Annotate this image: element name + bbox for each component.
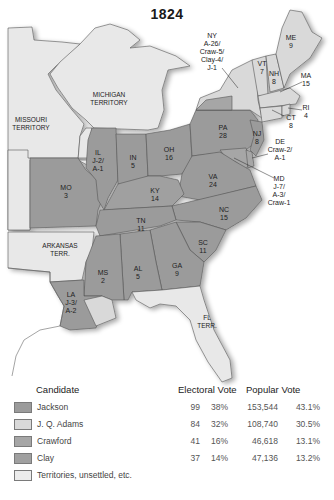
popular-votes: 153,544 [242,402,278,412]
label-ma: MA15 [301,72,312,87]
label-de: DECraw-2/A-1 [268,138,293,161]
popular-pct: 30.5% [290,419,320,429]
electoral-pct: 32% [206,419,228,429]
label-pa: PA28 [219,124,228,139]
popular-votes: 47,136 [242,453,278,463]
electoral-pct: 16% [206,436,228,446]
legend-row-adams: J. Q. Adams 84 32% 108,740 30.5% [14,419,324,433]
candidate-name: J. Q. Adams [37,419,83,429]
state-me [276,10,322,88]
label-missouri-territory: MISSOURITERRITORY [12,116,50,131]
label-ri: RI4 [303,104,310,119]
swatch-crawford [14,436,32,447]
label-md: MDJ-7/A-3/Craw-1 [268,175,291,206]
header-popular-vote: Popular Vote [246,384,300,395]
label-tn: TN11 [136,217,145,232]
legend-row-jackson: Jackson 99 38% 153,544 43.1% [14,402,324,416]
header-electoral-vote: Electoral Vote [178,384,237,395]
label-nc: NC15 [219,206,229,221]
legend-row-clay: Clay 37 14% 47,136 13.2% [14,453,324,467]
label-ct: CT8 [286,114,296,129]
label-va: VA24 [209,173,218,188]
popular-pct: 13.1% [290,436,320,446]
swatch-clay [14,453,32,464]
popular-pct: 43.1% [290,402,320,412]
popular-votes: 46,618 [242,436,278,446]
label-michigan-territory: MICHIGANTERRITORY [90,91,128,106]
electoral-votes: 37 [184,453,200,463]
label-sc: SC11 [198,239,208,254]
candidate-name: Jackson [37,402,68,412]
electoral-pct: 14% [206,453,228,463]
swatch-adams [14,419,32,430]
state-ct [260,106,282,122]
swatch-jackson [14,402,32,413]
popular-votes: 108,740 [242,419,278,429]
label-la: LAJ-3/A-2 [65,291,77,314]
florida-territory [132,286,232,382]
label-ny: NYA-26/Craw-5/Clay-4/J-1 [200,32,225,71]
electoral-votes: 99 [184,402,200,412]
popular-pct: 13.2% [290,453,320,463]
label-ky: KY14 [150,187,160,202]
candidate-name: Clay [37,453,54,463]
candidate-name: Crawford [37,436,71,446]
candidate-name: Territories, unsettled, etc. [37,470,132,480]
label-oh: OH16 [164,146,175,161]
header-candidate: Candidate [36,384,79,395]
arkansas-territory [8,232,94,282]
legend-row-territories: Territories, unsettled, etc. [14,470,324,484]
electoral-votes: 84 [184,419,200,429]
election-map: MISSOURITERRITORY MICHIGANTERRITORY ARKA… [0,0,334,390]
electoral-pct: 38% [206,402,228,412]
electoral-votes: 41 [184,436,200,446]
swatch-territories [14,470,32,481]
legend-row-crawford: Crawford 41 16% 46,618 13.1% [14,436,324,450]
